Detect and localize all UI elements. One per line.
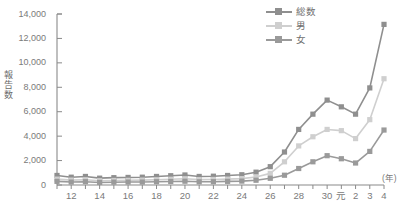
x-axis-tick: 28	[289, 191, 309, 201]
x-axis-tick: 14	[90, 191, 110, 201]
x-axis-tick: 26	[260, 191, 280, 201]
legend-label-female: 女	[296, 35, 306, 45]
data-point-marker	[310, 134, 315, 139]
legend-swatch-total-icon	[266, 7, 292, 16]
data-point-marker	[310, 112, 315, 117]
data-point-marker	[353, 160, 358, 165]
data-point-marker	[325, 98, 330, 103]
data-point-marker	[211, 179, 216, 184]
data-point-marker	[282, 173, 287, 178]
x-axis-tick: 22	[203, 191, 223, 201]
data-point-marker	[268, 164, 273, 169]
data-point-marker	[268, 176, 273, 181]
line-chart: 報告数 02,0004,0006,0008,00010,00012,00014,…	[0, 0, 400, 212]
data-point-marker	[282, 149, 287, 154]
legend-label-male: 男	[296, 21, 306, 31]
data-point-marker	[381, 127, 386, 132]
data-point-marker	[339, 104, 344, 109]
x-axis-tick: 4	[374, 191, 394, 201]
data-point-marker	[197, 179, 202, 184]
data-point-marker	[325, 153, 330, 158]
data-point-marker	[140, 179, 145, 184]
data-point-marker	[125, 179, 130, 184]
y-axis-tick: 6,000	[0, 107, 46, 116]
data-point-marker	[325, 127, 330, 132]
data-point-marker	[239, 178, 244, 183]
y-axis-tick: 14,000	[0, 10, 46, 19]
data-point-marker	[296, 143, 301, 148]
series-line-0	[57, 24, 384, 178]
data-point-marker	[182, 179, 187, 184]
y-axis-tick: 10,000	[0, 58, 46, 67]
x-axis-tick: 24	[232, 191, 252, 201]
data-point-marker	[111, 180, 116, 185]
y-axis-tick: 8,000	[0, 83, 46, 92]
legend-item-total[interactable]: 総数	[266, 5, 356, 18]
data-point-marker	[381, 22, 386, 27]
data-point-marker	[69, 179, 74, 184]
legend-label-total: 総数	[296, 7, 316, 17]
y-axis-tick: 0	[0, 181, 46, 190]
data-point-marker	[353, 112, 358, 117]
y-axis-tick: 2,000	[0, 156, 46, 165]
x-axis-tick: 12	[61, 191, 81, 201]
data-point-marker	[154, 179, 159, 184]
legend-swatch-female-icon	[266, 35, 292, 44]
data-point-marker	[310, 159, 315, 164]
data-point-marker	[367, 149, 372, 154]
legend-swatch-male-icon	[266, 21, 292, 30]
data-point-marker	[253, 178, 258, 183]
data-point-marker	[296, 127, 301, 132]
y-axis-tick: 12,000	[0, 34, 46, 43]
x-axis-tick: 18	[147, 191, 167, 201]
series-line-2	[57, 130, 384, 182]
x-axis-unit-label: (年)	[382, 174, 397, 183]
y-axis-tick: 4,000	[0, 132, 46, 141]
data-point-marker	[367, 85, 372, 90]
data-point-marker	[268, 171, 273, 176]
data-point-marker	[282, 159, 287, 164]
data-point-marker	[381, 76, 386, 81]
chart-legend: 総数 男 女	[266, 5, 356, 47]
data-point-marker	[168, 179, 173, 184]
x-axis-tick: 16	[118, 191, 138, 201]
data-point-marker	[83, 179, 88, 184]
data-point-marker	[225, 179, 230, 184]
data-point-marker	[97, 180, 102, 185]
data-point-marker	[253, 170, 258, 175]
series-line-1	[57, 79, 384, 181]
legend-item-female[interactable]: 女	[266, 33, 356, 46]
x-axis-tick: 20	[175, 191, 195, 201]
legend-item-male[interactable]: 男	[266, 19, 356, 32]
data-point-marker	[367, 117, 372, 122]
data-point-marker	[339, 128, 344, 133]
data-point-marker	[54, 179, 59, 184]
data-point-marker	[353, 136, 358, 141]
data-point-marker	[296, 166, 301, 171]
data-point-marker	[339, 156, 344, 161]
